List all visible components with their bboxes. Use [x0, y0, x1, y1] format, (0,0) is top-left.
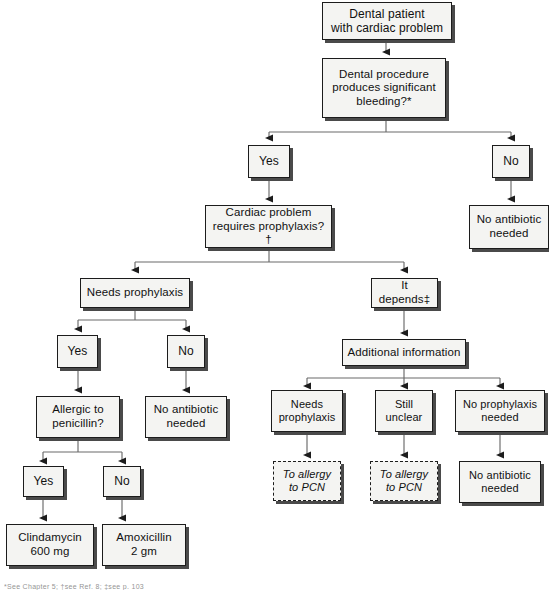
node-start: Dental patient with cardiac problem: [322, 2, 452, 40]
node-additional-information: Additional information: [342, 339, 466, 366]
node-clindamycin: Clindamycin 600 mg: [6, 524, 94, 566]
node-needs-prophylaxis: Needs prophylaxis: [80, 278, 190, 308]
node-ai-still-unclear: Still unclear: [375, 390, 433, 432]
node-allergy-no-label: No: [114, 474, 130, 488]
node-bleeding-no: No: [492, 145, 530, 178]
node-to-pcn-1-label: To allergy to PCN: [283, 468, 331, 494]
node-allergy-no: No: [103, 466, 141, 497]
node-amoxicillin: Amoxicillin 2 gm: [102, 524, 186, 566]
node-allergic-question: Allergic to penicillin?: [36, 396, 120, 438]
node-allergic-question-label: Allergic to penicillin?: [52, 403, 104, 430]
node-no-antibiotic-bottom: No antibiotic needed: [459, 461, 541, 503]
node-additional-information-label: Additional information: [348, 346, 461, 360]
node-no-antibiotic-mid: No antibiotic needed: [145, 396, 227, 438]
node-np-no: No: [167, 335, 205, 368]
node-np-no-label: No: [178, 344, 194, 358]
node-to-pcn-2: To allergy to PCN: [370, 461, 438, 501]
node-bleeding-no-label: No: [503, 154, 519, 168]
node-np-yes-label: Yes: [68, 344, 88, 358]
node-np-yes: Yes: [57, 335, 98, 368]
node-it-depends-label: It depends‡: [376, 279, 433, 306]
node-no-antibiotic-mid-label: No antibiotic needed: [154, 403, 219, 430]
node-ai-still-unclear-label: Still unclear: [386, 398, 423, 424]
node-bleeding-yes-label: Yes: [259, 154, 279, 168]
node-no-antibiotic-right: No antibiotic needed: [469, 205, 549, 249]
node-clindamycin-label: Clindamycin 600 mg: [18, 531, 82, 558]
flowchart-canvas: Dental patient with cardiac problem Dent…: [0, 0, 549, 590]
footnote-text: *See Chapter 5; †see Ref. 8; ‡see p. 103: [4, 583, 144, 590]
node-amoxicillin-label: Amoxicillin 2 gm: [116, 531, 171, 558]
node-ai-no-prophylaxis-label: No prophylaxis needed: [463, 398, 537, 424]
node-no-antibiotic-right-label: No antibiotic needed: [477, 213, 542, 240]
node-bleeding-yes: Yes: [248, 145, 290, 178]
node-ai-no-prophylaxis: No prophylaxis needed: [455, 390, 545, 432]
node-cardiac-question-label: Cardiac problem requires prophylaxis?†: [210, 206, 327, 247]
node-allergy-yes-label: Yes: [34, 474, 54, 488]
node-allergy-yes: Yes: [23, 466, 64, 497]
node-to-pcn-2-label: To allergy to PCN: [380, 468, 428, 494]
node-start-label: Dental patient with cardiac problem: [331, 7, 443, 35]
node-to-pcn-1: To allergy to PCN: [273, 461, 341, 501]
node-needs-prophylaxis-label: Needs prophylaxis: [87, 286, 183, 300]
node-ai-needs-prophylaxis-label: Needs prophylaxis: [279, 398, 336, 424]
node-ai-needs-prophylaxis: Needs prophylaxis: [271, 390, 343, 432]
node-cardiac-question: Cardiac problem requires prophylaxis?†: [205, 205, 332, 248]
node-no-antibiotic-bottom-label: No antibiotic needed: [469, 469, 531, 495]
node-bleeding-question: Dental procedure produces significant bl…: [322, 58, 446, 118]
node-bleeding-question-label: Dental procedure produces significant bl…: [332, 68, 436, 109]
node-it-depends: It depends‡: [371, 278, 438, 308]
